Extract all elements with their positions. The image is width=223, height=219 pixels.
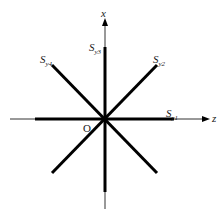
x-axis-label: x <box>101 8 106 19</box>
origin-label: O <box>83 123 91 134</box>
label-sy3: Sy3 <box>89 38 101 56</box>
label-sy4: Sy4 <box>40 50 52 68</box>
label-sy2: Sy2 <box>153 50 165 68</box>
z-axis-label: z <box>212 113 216 124</box>
label-sy1: Sy1 <box>166 104 178 122</box>
coordinate-diagram <box>0 0 223 219</box>
origin-point <box>103 117 108 122</box>
x-axis-arrow-icon <box>102 18 108 26</box>
z-axis-arrow-icon <box>202 116 210 122</box>
